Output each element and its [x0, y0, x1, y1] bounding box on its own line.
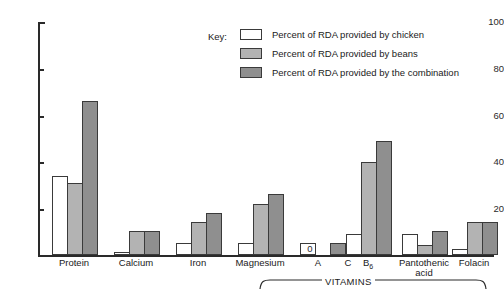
bar-iron-beans [191, 222, 207, 255]
bar-vitamin-b6-chicken [346, 234, 362, 255]
bar-group-calcium [114, 22, 162, 255]
bar-pantothenic-acid-chicken [402, 234, 418, 255]
x-label-magnesium: Magnesium [235, 258, 284, 268]
legend-label-beans: Percent of RDA provided by beans [272, 48, 418, 59]
vitamin-c-zero-label: 0 [307, 244, 312, 254]
vitamins-bracket-label: VITAMINS [322, 276, 375, 287]
legend-label-combination: Percent of RDA provided by the combinati… [272, 67, 459, 78]
legend-swatch-combination [240, 67, 262, 78]
x-label-protein: Protein [59, 258, 89, 268]
bar-protein-combination [82, 101, 98, 255]
bar-group-iron [176, 22, 224, 255]
x-label-iron: Iron [190, 258, 206, 268]
bar-vitamin-b6-beans [361, 162, 377, 255]
bar-protein-chicken [52, 176, 68, 255]
legend-title: Key: [208, 31, 227, 42]
bar-calcium-chicken [114, 252, 130, 255]
bar-pantothenic-acid-beans [417, 245, 433, 255]
bar-folacin-beans [467, 222, 483, 255]
bar-vitamin-b6-combination [376, 141, 392, 255]
x-label-vitamin-a: A [315, 258, 321, 268]
legend-swatch-chicken [240, 29, 262, 40]
bar-calcium-combination [144, 231, 160, 255]
bar-calcium-beans [129, 231, 145, 255]
legend-swatch-beans [240, 48, 262, 59]
x-label-vitamin-b6: B6 [363, 258, 373, 270]
bar-vitamin-a-combination [330, 243, 346, 255]
x-label-folacin: Folacin [459, 258, 490, 268]
bar-chart: 100 80 60 40 20 [0, 0, 504, 302]
x-label-calcium: Calcium [119, 258, 153, 268]
bar-magnesium-combination [268, 194, 284, 255]
bar-group-protein [52, 22, 100, 255]
bar-iron-combination [206, 213, 222, 255]
bar-magnesium-beans [253, 204, 269, 255]
bar-pantothenic-acid-combination [432, 231, 448, 255]
bar-folacin-combination [482, 222, 498, 255]
bar-iron-chicken [176, 243, 192, 255]
x-label-vitamin-c: C [345, 258, 352, 268]
bar-protein-beans [67, 183, 83, 255]
x-label-pantothenic-acid: Pantothenic acid [396, 258, 452, 278]
legend-label-chicken: Percent of RDA provided by chicken [272, 29, 424, 40]
bar-folacin-chicken [452, 249, 468, 255]
bar-magnesium-chicken [238, 243, 254, 255]
bar-group-folacin [452, 22, 500, 255]
plot-area: 0 [38, 22, 494, 255]
x-label-vitamin-b6-subscript: 6 [369, 263, 373, 270]
